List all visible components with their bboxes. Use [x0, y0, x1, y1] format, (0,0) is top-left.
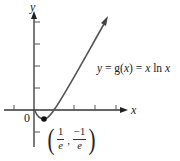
left-paren: (: [48, 124, 55, 154]
right-paren: ): [89, 124, 96, 154]
eq-x2: x: [165, 62, 170, 74]
origin-label: 0: [24, 112, 30, 124]
point-comma: ,: [67, 134, 70, 154]
eq-equals-1: =: [102, 62, 114, 74]
fraction-y: −1 e: [73, 127, 86, 151]
fraction-y-numerator: −1: [73, 127, 86, 140]
eq-ln: ln: [150, 62, 165, 74]
x-axis-arrow-icon: [120, 107, 128, 113]
fraction-x-numerator: 1: [57, 127, 64, 140]
min-point-label: ( 1 e , −1 e ): [46, 124, 97, 154]
fraction-y-denominator: e: [77, 140, 82, 152]
fraction-x: 1 e: [57, 127, 64, 151]
eq-equals-2: =: [133, 62, 145, 74]
function-label: y = g(x) = x ln x: [97, 63, 170, 75]
eq-g: g(: [114, 62, 124, 74]
x-ticks: [14, 105, 116, 110]
min-point-marker: [41, 116, 47, 122]
y-axis-label: y: [30, 1, 35, 13]
curve-g: [35, 24, 104, 119]
x-axis-label: x: [131, 104, 136, 116]
curve-arrow-icon: [101, 16, 108, 26]
fraction-x-denominator: e: [58, 140, 63, 152]
